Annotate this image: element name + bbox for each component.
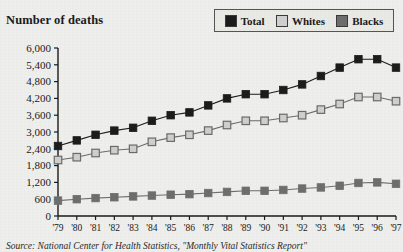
- svg-text:'85: '85: [165, 223, 176, 233]
- svg-text:'79: '79: [52, 223, 63, 233]
- svg-text:'96: '96: [372, 223, 383, 233]
- chart-svg: 6,0005,4004,8004,2003,6003,0002,4001,800…: [0, 0, 403, 252]
- svg-text:600: 600: [35, 193, 52, 205]
- svg-text:'94: '94: [334, 223, 345, 233]
- svg-text:3,000: 3,000: [26, 126, 51, 138]
- svg-text:'86: '86: [184, 223, 195, 233]
- svg-text:'95: '95: [353, 223, 364, 233]
- svg-text:'84: '84: [146, 223, 157, 233]
- svg-text:'90: '90: [259, 223, 270, 233]
- x-axis-tick-labels: '79'80'81'82'83'84'85'86'87'88'89'90'91'…: [52, 223, 401, 233]
- svg-text:'80: '80: [71, 223, 82, 233]
- chart-series-group: [54, 55, 400, 204]
- svg-text:'88: '88: [221, 223, 232, 233]
- svg-text:'89: '89: [240, 223, 251, 233]
- svg-text:'83: '83: [128, 223, 139, 233]
- svg-text:6,000: 6,000: [26, 42, 51, 54]
- svg-text:'91: '91: [278, 223, 289, 233]
- svg-text:1,800: 1,800: [26, 159, 51, 171]
- svg-text:1,200: 1,200: [26, 176, 51, 188]
- svg-text:'82: '82: [109, 223, 120, 233]
- svg-text:'81: '81: [90, 223, 101, 233]
- chart-plot-area: 6,0005,4004,8004,2003,6003,0002,4001,800…: [0, 0, 403, 252]
- svg-text:4,800: 4,800: [26, 75, 51, 87]
- svg-text:0: 0: [46, 210, 52, 222]
- svg-text:2,400: 2,400: [26, 143, 51, 155]
- svg-text:3,600: 3,600: [26, 109, 51, 121]
- y-axis-tick-labels: 6,0005,4004,8004,2003,6003,0002,4001,800…: [26, 42, 51, 222]
- source-note: Source: National Center for Health Stati…: [6, 241, 307, 251]
- svg-text:4,200: 4,200: [26, 92, 51, 104]
- svg-text:'87: '87: [203, 223, 214, 233]
- svg-text:'92: '92: [297, 223, 308, 233]
- svg-text:'93: '93: [315, 223, 326, 233]
- svg-text:5,400: 5,400: [26, 59, 51, 71]
- svg-text:'97: '97: [390, 223, 401, 233]
